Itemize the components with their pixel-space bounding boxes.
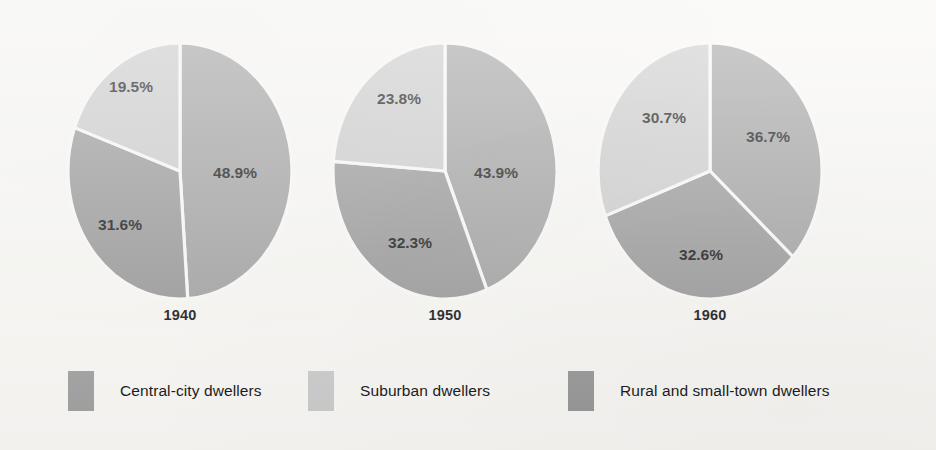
pie-year-label-1940: 1940 — [35, 307, 325, 323]
pie-slice-label-rural-1940: 31.6% — [98, 216, 142, 233]
chart-legend: Central-city dwellers Suburban dwellers … — [0, 365, 936, 425]
pie-chart-1950: 43.9% 32.3% 23.8% — [300, 14, 590, 314]
pie-slice-label-central-city-1940: 48.9% — [213, 164, 257, 181]
legend-label-suburban: Suburban dwellers — [360, 382, 490, 400]
legend-swatch-rural — [568, 371, 594, 411]
pie-slice-label-suburban-1940: 19.5% — [109, 78, 153, 95]
pie-slice-label-central-city-1960: 36.7% — [746, 128, 790, 145]
pie-svg-1960: 36.7% 32.6% 30.7% — [565, 14, 855, 314]
pie-slices-1940 — [68, 43, 292, 299]
pie-chart-figure: 48.9% 31.6% 19.5% 1940 43.9% 32.3% 23.8%… — [0, 0, 936, 450]
pie-slice-label-suburban-1960: 30.7% — [642, 109, 686, 126]
legend-swatch-suburban — [308, 371, 334, 411]
legend-item-rural[interactable]: Rural and small-town dwellers — [568, 365, 830, 417]
legend-item-central-city[interactable]: Central-city dwellers — [68, 365, 262, 417]
pie-slice-label-rural-1960: 32.6% — [679, 246, 723, 263]
legend-swatch-central-city — [68, 371, 94, 411]
pie-slice-label-rural-1950: 32.3% — [388, 234, 432, 251]
pie-slice-label-central-city-1950: 43.9% — [474, 164, 518, 181]
pie-slice-label-suburban-1950: 23.8% — [377, 90, 421, 107]
legend-label-central-city: Central-city dwellers — [120, 382, 262, 400]
pie-slices-1950 — [333, 43, 557, 299]
pie-year-label-1960: 1960 — [565, 307, 855, 323]
pie-chart-1940: 48.9% 31.6% 19.5% — [35, 14, 325, 314]
legend-label-rural: Rural and small-town dwellers — [620, 382, 830, 400]
pie-svg-1950: 43.9% 32.3% 23.8% — [300, 14, 590, 314]
pie-year-label-1950: 1950 — [300, 307, 590, 323]
pie-chart-1960: 36.7% 32.6% 30.7% — [565, 14, 855, 314]
legend-item-suburban[interactable]: Suburban dwellers — [308, 365, 490, 417]
pie-svg-1940: 48.9% 31.6% 19.5% — [35, 14, 325, 314]
